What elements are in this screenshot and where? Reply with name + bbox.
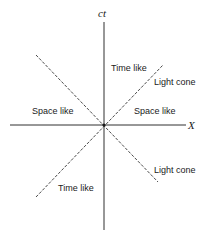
time-like-lower-label: Time like: [58, 183, 94, 193]
light-cone-line-descending: [36, 55, 158, 182]
space-like-left-label: Space like: [32, 106, 74, 116]
light-cone-lower-label: Light cone: [154, 165, 196, 175]
time-like-upper-label: Time like: [111, 63, 147, 73]
origin-point: [102, 123, 105, 126]
light-cone-upper-label: Light cone: [154, 77, 196, 87]
ct-axis-label: ct: [98, 7, 107, 19]
x-axis-label: X: [187, 119, 196, 131]
space-like-right-label: Space like: [134, 106, 176, 116]
spacetime-diagram: ct X Time like Space like Space like Tim…: [0, 0, 204, 236]
light-cone-line-ascending: [36, 65, 163, 197]
